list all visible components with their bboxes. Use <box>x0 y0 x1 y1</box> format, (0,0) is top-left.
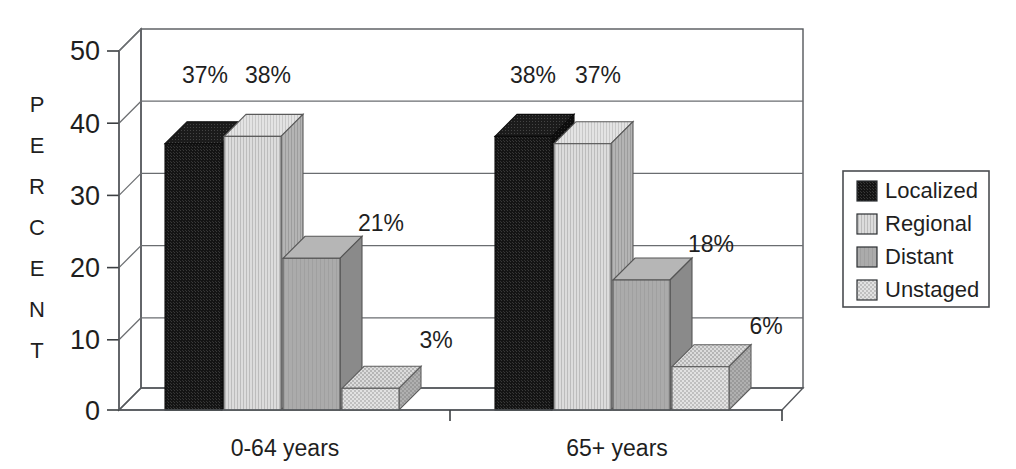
bar-front-face <box>165 144 222 410</box>
gridline-30-depth <box>119 173 141 195</box>
legend-swatch-localized-icon <box>857 181 877 201</box>
y-tick-label-10: 10 <box>70 325 100 355</box>
y-tick-label-0: 0 <box>85 396 100 426</box>
gridline-10-depth <box>119 318 141 340</box>
y-axis-ticks <box>107 51 119 410</box>
legend-swatch-distant-icon <box>857 247 877 267</box>
y-tick-label-20: 20 <box>70 253 100 283</box>
gridline-20-depth <box>119 246 141 268</box>
y-axis-title-letter-n: N <box>29 297 45 322</box>
legend-item-distant[interactable]: Distant <box>857 244 953 269</box>
y-axis-title-letter-p: P <box>30 92 45 117</box>
legend-item-localized[interactable]: Localized <box>857 178 978 203</box>
legend-label-regional: Regional <box>885 211 972 236</box>
legend-item-regional[interactable]: Regional <box>857 211 972 236</box>
category-label-65-plus: 65+ years <box>566 435 668 461</box>
gridline-40-depth <box>119 101 141 123</box>
y-axis-title-letter-e1: E <box>30 133 45 158</box>
x-axis-category-labels: 0-64 years 65+ years <box>231 435 668 461</box>
value-label-unstaged: 6% <box>749 313 782 339</box>
bar-front-face <box>224 136 281 410</box>
y-axis-title-letter-r: R <box>29 174 45 199</box>
value-label-regional: 37% <box>575 62 621 88</box>
value-label-regional: 38% <box>245 62 291 88</box>
bar-front-face <box>283 258 340 410</box>
bar-group2-unstaged[interactable] <box>672 345 751 410</box>
bar-front-face <box>342 388 399 410</box>
legend-swatch-regional-icon <box>857 214 877 234</box>
y-axis-title-letter-e2: E <box>30 256 45 281</box>
y-axis-title-letter-t: T <box>30 338 43 363</box>
y-axis-title: P E R C E N T <box>29 92 45 363</box>
legend-item-unstaged[interactable]: Unstaged <box>857 277 979 302</box>
y-axis-title-letter-c: C <box>29 215 45 240</box>
bar-front-face <box>495 136 552 410</box>
y-tick-label-30: 30 <box>70 181 100 211</box>
value-label-distant: 18% <box>688 231 734 257</box>
legend-label-unstaged: Unstaged <box>885 277 979 302</box>
value-label-localized: 38% <box>510 62 556 88</box>
value-label-distant: 21% <box>358 210 404 236</box>
left-wall <box>119 29 141 410</box>
y-tick-label-50: 50 <box>70 36 100 66</box>
legend-label-localized: Localized <box>885 178 978 203</box>
value-label-unstaged: 3% <box>419 327 452 353</box>
y-tick-label-40: 40 <box>70 109 100 139</box>
bar-front-face <box>554 144 611 410</box>
bar-chart-svg: 50 40 30 20 10 0 P E R C E N T <box>0 0 1016 469</box>
legend: Localized Regional Distant Unstaged <box>843 171 989 307</box>
bar-front-face <box>613 280 670 410</box>
chart-container: 50 40 30 20 10 0 P E R C E N T <box>0 0 1016 469</box>
value-label-localized: 37% <box>182 62 228 88</box>
legend-swatch-unstaged-icon <box>857 280 877 300</box>
legend-label-distant: Distant <box>885 244 953 269</box>
category-label-0-64: 0-64 years <box>231 435 340 461</box>
bar-front-face <box>672 367 729 410</box>
y-axis-tick-labels: 50 40 30 20 10 0 <box>70 36 100 426</box>
gridline-50-depth <box>119 29 141 51</box>
